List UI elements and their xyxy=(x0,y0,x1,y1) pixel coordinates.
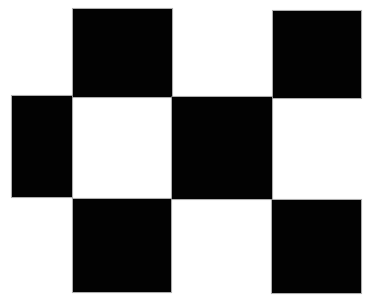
black-square-bottom-left xyxy=(73,199,171,292)
black-square-middle-center xyxy=(172,97,272,199)
checkerboard-canvas xyxy=(0,0,375,302)
black-square-bottom-right xyxy=(272,200,361,293)
black-square-top-left xyxy=(73,9,172,97)
black-square-top-right xyxy=(273,11,361,98)
black-square-middle-left xyxy=(12,96,72,197)
